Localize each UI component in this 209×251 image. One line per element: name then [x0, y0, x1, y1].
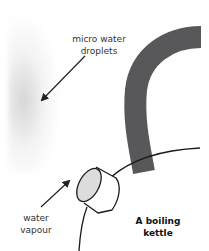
kettle-label: A boiling kettle: [130, 215, 186, 239]
vapour-label-line1: water: [14, 212, 58, 224]
droplets-label-line2: droplets: [66, 45, 132, 57]
kettle-body-outline: [110, 148, 200, 178]
vapour-label-line2: vapour: [14, 224, 58, 236]
kettle-label-line2: kettle: [130, 227, 186, 239]
kettle-body-outline-lower: [79, 207, 87, 251]
kettle-label-line1: A boiling: [130, 215, 186, 227]
vapour-label: water vapour: [14, 212, 58, 236]
droplets-arrow: [42, 56, 85, 100]
vapour-arrow: [41, 181, 69, 207]
kettle-spout: [72, 164, 119, 213]
droplets-label: micro water droplets: [66, 33, 132, 57]
droplets-label-line1: micro water: [66, 33, 132, 45]
